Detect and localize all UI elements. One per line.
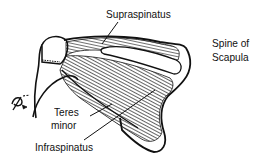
humeral-head — [42, 37, 68, 64]
label-spine-of-scapula-line2: Scapula — [212, 51, 249, 63]
label-spine-of-scapula-line1: Spine of — [212, 37, 249, 49]
label-teres-minor-line2: minor — [51, 119, 76, 131]
label-supraspinatus: Supraspinatus — [106, 8, 171, 20]
rotation-arrow-icon — [12, 95, 30, 110]
label-teres-minor-line1: Teres — [54, 106, 79, 118]
label-infraspinatus: Infraspinatus — [35, 141, 93, 153]
